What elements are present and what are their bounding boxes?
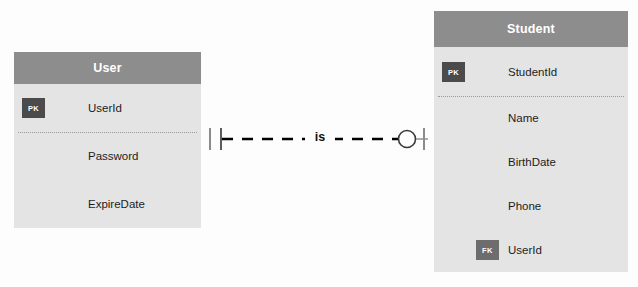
fk-badge-icon: FK	[476, 240, 499, 260]
attribute-row-userid[interactable]: PK UserId	[14, 84, 201, 132]
attribute-label-studentid: StudentId	[508, 66, 557, 78]
attribute-row-studentid[interactable]: PK StudentId	[434, 47, 628, 96]
attribute-label-phone: Phone	[508, 200, 541, 212]
key-badge-placeholder	[442, 152, 465, 172]
attribute-label-password: Password	[88, 150, 139, 162]
attribute-label-name: Name	[508, 112, 539, 124]
attribute-label-userid: UserId	[88, 102, 122, 114]
entity-user-title: User	[14, 52, 201, 84]
attribute-label-expiredate: ExpireDate	[88, 198, 145, 210]
key-badge-placeholder	[442, 196, 465, 216]
attribute-row-userid-fk[interactable]: FK UserId	[434, 228, 628, 272]
attribute-row-phone[interactable]: Phone	[434, 184, 628, 228]
key-badge-placeholder	[22, 194, 45, 214]
attribute-label-userid-fk: UserId	[508, 244, 542, 256]
er-diagram-canvas: User PK UserId Password ExpireDate Stude…	[0, 0, 638, 287]
attribute-row-password[interactable]: Password	[14, 132, 201, 180]
entity-student[interactable]: Student PK StudentId Name BirthDate Phon…	[434, 11, 628, 272]
key-badge-placeholder	[22, 146, 45, 166]
entity-user[interactable]: User PK UserId Password ExpireDate	[14, 52, 201, 228]
relationship-label: is	[305, 131, 335, 144]
cardinality-zero-circle-icon	[399, 131, 416, 148]
attribute-row-expiredate[interactable]: ExpireDate	[14, 180, 201, 228]
entity-user-attributes: PK UserId Password ExpireDate	[14, 84, 201, 228]
attribute-row-name[interactable]: Name	[434, 96, 628, 140]
attribute-label-birthdate: BirthDate	[508, 156, 556, 168]
key-badge-placeholder	[442, 108, 465, 128]
pk-badge-icon: PK	[442, 62, 465, 82]
pk-badge-icon: PK	[22, 98, 45, 118]
entity-student-title: Student	[434, 11, 628, 47]
entity-student-attributes: PK StudentId Name BirthDate Phone FK Use…	[434, 47, 628, 272]
attribute-row-birthdate[interactable]: BirthDate	[434, 140, 628, 184]
